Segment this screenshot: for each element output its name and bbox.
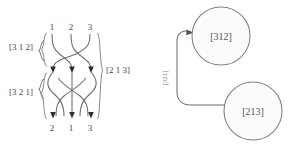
state-graph: [321] [312] [213]: [161, 7, 282, 140]
state-edge-label: [321]: [161, 71, 169, 85]
braid-diagram: 1 2 3: [9, 22, 130, 133]
braid-bottom-label-1: 2: [50, 123, 55, 133]
braid-top-labels: 1 2 3: [50, 22, 93, 32]
braid-strand-upper-a: [52, 34, 72, 70]
braid-right-label: [2 1 3]: [106, 65, 130, 75]
braid-bottom-arrowheads: [50, 112, 94, 119]
state-node-312-label: [312]: [210, 31, 232, 42]
braid-top-label-1: 1: [50, 22, 55, 32]
permutation-braid-and-state-graph: 1 2 3: [0, 0, 288, 152]
braid-left-label-lower: [3 2 1]: [9, 87, 33, 97]
braid-inner-brace-topleft: [42, 33, 48, 66]
braid-arrowhead-bottom-3: [88, 112, 94, 119]
braid-right-brace: [97, 33, 103, 119]
braid-bottom-labels: 2 1 3: [50, 123, 93, 133]
braid-strand-lower-a: [48, 72, 64, 116]
state-node-312[interactable]: [312]: [192, 7, 250, 65]
braid-left-label-upper: [3 1 2]: [9, 42, 33, 52]
braid-strand-lower-c: [80, 72, 96, 116]
braid-upper-strands: [52, 34, 91, 70]
braid-top-label-3: 3: [88, 22, 93, 32]
braid-strand-upper-b: [71, 34, 91, 70]
braid-arrowhead-bottom-2: [69, 112, 75, 119]
braid-bottom-label-3: 3: [88, 123, 93, 133]
state-node-213-label: [213]: [242, 106, 264, 117]
braid-arrowhead-bottom-1: [50, 112, 56, 119]
braid-top-label-2: 2: [69, 22, 74, 32]
braid-lower-strands: [48, 72, 97, 116]
diagram-canvas: 1 2 3: [0, 0, 288, 152]
state-node-213[interactable]: [213]: [224, 82, 282, 140]
braid-bottom-label-2: 1: [69, 123, 74, 133]
